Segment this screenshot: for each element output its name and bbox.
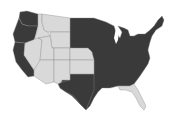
state-wyoming[interactable] <box>50 32 70 48</box>
us-map <box>0 0 176 116</box>
state-florida[interactable] <box>118 84 146 110</box>
state-montana[interactable] <box>42 14 70 32</box>
state-colorado[interactable] <box>54 48 70 60</box>
state-kansas[interactable] <box>70 60 94 74</box>
